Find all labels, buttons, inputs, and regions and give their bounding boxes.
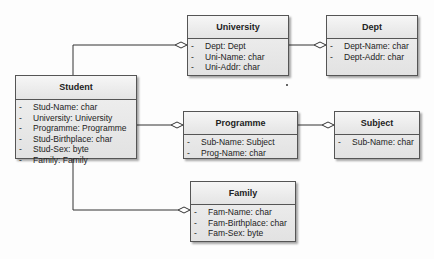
attribute: -Stud-Birthplace: char bbox=[19, 134, 133, 145]
attribute: -Dept-Name: char bbox=[330, 41, 414, 52]
attribute: -Stud-Sex: byte bbox=[19, 144, 133, 155]
class-programme[interactable]: Programme -Sub-Name: Subject -Prog-Name:… bbox=[183, 111, 298, 159]
attribute: -Fam-Birthplace: char bbox=[194, 218, 292, 229]
attribute: -Fam-Name: char bbox=[194, 207, 292, 218]
stray-dot bbox=[286, 84, 288, 86]
class-name: Family bbox=[191, 182, 295, 205]
class-name: Programme bbox=[184, 112, 297, 135]
attribute: -Sub-Name: char bbox=[338, 137, 416, 148]
class-student[interactable]: Student -Stud-Name: char -University: Un… bbox=[15, 75, 137, 159]
attribute: -Family: Family bbox=[19, 155, 133, 166]
aggregation-diamond-programme bbox=[171, 122, 183, 128]
class-subject[interactable]: Subject -Sub-Name: char bbox=[334, 111, 420, 159]
attribute: -University: University bbox=[19, 113, 133, 124]
attribute: -Stud-Name: char bbox=[19, 102, 133, 113]
attribute: -Uni-Name: char bbox=[191, 52, 285, 63]
attribute-list: -Fam-Name: char -Fam-Birthplace: char -F… bbox=[191, 205, 295, 241]
attribute: -Fam-Sex: byte bbox=[194, 228, 292, 239]
class-name: Dept bbox=[327, 16, 417, 39]
attribute-list: -Sub-Name: char bbox=[335, 135, 419, 150]
class-name: Student bbox=[16, 76, 136, 100]
aggregation-diamond-family bbox=[178, 207, 190, 213]
class-name: University bbox=[188, 16, 288, 39]
attribute: -Dept-Addr: char bbox=[330, 52, 414, 63]
attribute: -Programme: Programme bbox=[19, 123, 133, 134]
class-name: Subject bbox=[335, 112, 419, 135]
attribute-list: -Stud-Name: char -University: University… bbox=[16, 100, 136, 167]
class-family[interactable]: Family -Fam-Name: char -Fam-Birthplace: … bbox=[190, 181, 296, 242]
attribute-list: -Dept-Name: char -Dept-Addr: char bbox=[327, 39, 417, 64]
attribute-list: -Sub-Name: Subject -Prog-Name: char bbox=[184, 135, 297, 160]
attribute-list: -Dept: Dept -Uni-Name: char -Uni-Addr: c… bbox=[188, 39, 288, 75]
attribute: -Uni-Addr: char bbox=[191, 62, 285, 73]
link-student-university bbox=[73, 45, 175, 75]
aggregation-diamond-dept bbox=[314, 42, 326, 48]
class-university[interactable]: University -Dept: Dept -Uni-Name: char -… bbox=[187, 15, 289, 76]
class-dept[interactable]: Dept -Dept-Name: char -Dept-Addr: char bbox=[326, 15, 418, 76]
attribute: -Prog-Name: char bbox=[187, 148, 294, 159]
attribute: -Sub-Name: Subject bbox=[187, 137, 294, 148]
aggregation-diamond-university bbox=[175, 42, 187, 48]
aggregation-diamond-subject bbox=[322, 122, 334, 128]
attribute: -Dept: Dept bbox=[191, 41, 285, 52]
